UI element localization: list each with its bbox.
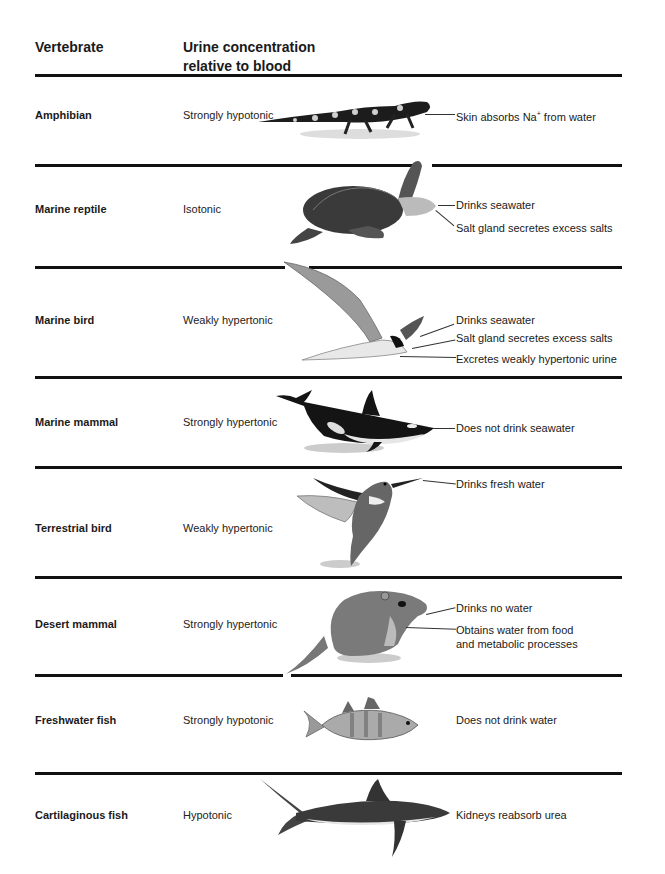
annotation-salt-gland: Salt gland secretes excess salts [456,221,613,235]
vertebrate-label: Freshwater fish [35,714,116,726]
salamander-icon [255,96,435,141]
column-header-vertebrate: Vertebrate [35,38,103,57]
annotation-kidneys-reabsorb-urea: Kidneys reabsorb urea [456,808,567,822]
annotation-drinks-fresh-water: Drinks fresh water [456,477,545,491]
row-divider [35,376,622,379]
leader-line [433,428,455,429]
vertebrate-label: Marine bird [35,314,94,326]
row-divider [35,576,622,579]
concentration-label: Strongly hypertonic [183,618,277,630]
concentration-label: Strongly hypotonic [183,714,274,726]
leader-line [425,114,455,115]
annotation-obtains-water-line1: Obtains water from food [456,623,573,637]
annotation-drinks-no-water: Drinks no water [456,601,532,615]
annotation-does-not-drink-water: Does not drink water [456,713,557,727]
vertebrate-label: Marine reptile [35,203,107,215]
sea-turtle-icon [288,158,440,248]
concentration-label: Strongly hypertonic [183,416,277,428]
column-header-urine-concentration-line1: Urine concentration [183,38,315,57]
concentration-label: Hypotonic [183,809,232,821]
annotation-drinks-seawater: Drinks seawater [456,313,535,327]
annotation-drinks-seawater: Drinks seawater [456,198,535,212]
vertebrate-label: Cartilaginous fish [35,809,128,821]
vertebrate-label: Marine mammal [35,416,118,428]
annotation-does-not-drink-seawater: Does not drink seawater [456,421,575,435]
header-divider [35,74,622,77]
annotation-obtains-water-line2: and metabolic processes [456,637,578,651]
perch-icon [302,697,422,749]
row-divider [35,772,622,775]
row-divider [35,466,622,469]
vertebrate-label: Terrestrial bird [35,522,112,534]
annotation-salt-gland: Salt gland secretes excess salts [456,331,613,345]
kangaroo-rat-icon [284,586,434,678]
leader-line [438,205,455,206]
shark-icon [256,777,452,859]
vertebrate-label: Amphibian [35,109,92,121]
orca-icon [274,386,436,456]
vertebrate-label: Desert mammal [35,618,117,630]
tern-icon [282,260,432,365]
annotation-skin-absorbs-na: Skin absorbs Na+ from water [456,107,596,124]
concentration-label: Weakly hypertonic [183,522,273,534]
annotation-excretes-urine: Excretes weakly hypertonic urine [456,352,617,366]
leader-line [423,480,456,484]
concentration-label: Isotonic [183,203,221,215]
concentration-label: Weakly hypertonic [183,314,273,326]
hummingbird-icon [295,472,425,572]
